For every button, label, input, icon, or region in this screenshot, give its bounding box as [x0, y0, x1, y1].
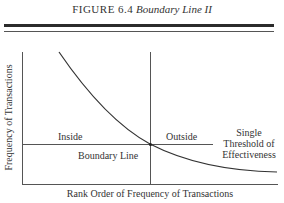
threshold-label-line2: Threshold of [214, 138, 284, 149]
threshold-label: Single Threshold of Effectiveness [214, 127, 284, 160]
threshold-label-line1: Single [214, 127, 284, 138]
inside-label: Inside [58, 131, 82, 142]
outside-label: Outside [166, 131, 197, 142]
diagram-canvas [0, 0, 284, 203]
boundary-line-label: Boundary Line [78, 150, 138, 161]
x-axis-label: Rank Order of Frequency of Transactions [22, 188, 278, 199]
intersection-point [149, 143, 152, 146]
y-axis-label: Frequency of Transactions [3, 58, 14, 178]
threshold-label-line3: Effectiveness [214, 149, 284, 160]
